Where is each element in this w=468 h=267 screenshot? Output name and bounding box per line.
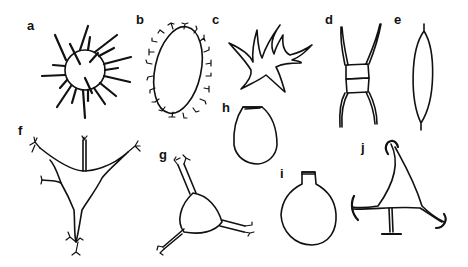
panel-label-h: h	[222, 100, 230, 115]
panel-e: e	[394, 12, 433, 130]
spines	[42, 26, 131, 118]
star-body	[229, 25, 312, 92]
central-spine	[83, 140, 86, 171]
panel-label-c: c	[212, 12, 219, 27]
aperture	[243, 107, 262, 109]
flask-body	[281, 172, 336, 245]
panel-c: c	[212, 12, 312, 92]
panel-b: b	[136, 12, 211, 118]
panel-label-f: f	[18, 123, 23, 138]
tripod-body	[40, 148, 128, 242]
panel-label-a: a	[27, 18, 35, 33]
panel-label-g: g	[159, 147, 167, 162]
triangular-body-j	[352, 144, 444, 232]
segments	[340, 24, 381, 127]
panel-label-i: i	[280, 166, 284, 181]
panel-g: g	[157, 147, 254, 255]
panel-f: f	[18, 123, 140, 255]
microfossil-diagram: a b	[0, 0, 468, 267]
panel-label-e: e	[394, 12, 401, 27]
panel-a: a	[27, 18, 131, 118]
flask-neck-rim	[302, 172, 315, 174]
arms	[163, 164, 245, 249]
panel-j: j	[352, 140, 446, 234]
ellipse-body	[146, 22, 209, 118]
spindle-body	[413, 24, 433, 130]
ovoid-body	[234, 107, 277, 164]
panel-d: d	[325, 12, 381, 127]
side-arm	[42, 180, 61, 183]
panel-label-j: j	[360, 140, 365, 155]
triangular-body	[180, 193, 222, 233]
panel-label-b: b	[136, 12, 144, 27]
panel-label-d: d	[325, 12, 333, 27]
panel-i: i	[280, 166, 336, 245]
panel-h: h	[222, 100, 277, 164]
